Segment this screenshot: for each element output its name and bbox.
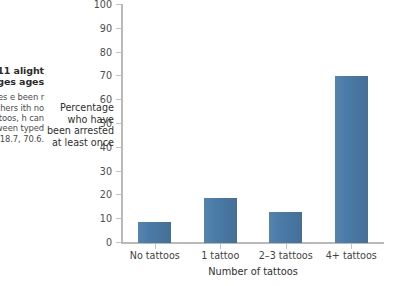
y-axis-tick [116, 218, 121, 219]
x-axis-tick [220, 244, 221, 249]
plot-area [122, 5, 384, 243]
y-axis-tick-label: 0 [106, 237, 112, 248]
bar[interactable] [335, 76, 368, 243]
x-axis-tick-label: 4+ tattoos [326, 250, 377, 261]
y-axis-tick [116, 147, 121, 148]
y-axis-tick [116, 123, 121, 124]
y-axis-title: Percentage who have been arrested at lea… [46, 102, 114, 148]
x-axis-tick [351, 244, 352, 249]
y-axis-tick [116, 4, 121, 5]
x-axis-tick-label: No tattoos [130, 250, 180, 261]
bar[interactable] [204, 198, 237, 243]
bar[interactable] [138, 222, 171, 243]
y-axis-tick-label: 10 [100, 213, 112, 224]
y-axis-tick [116, 28, 121, 29]
bar-chart: 0102030405060708090100 No tattoos1 tatto… [0, 0, 393, 286]
y-axis-tick [116, 242, 121, 243]
x-axis-tick-label: 1 tattoo [201, 250, 239, 261]
x-axis-tick [155, 244, 156, 249]
x-axis-title: Number of tattoos [208, 266, 298, 277]
y-axis-tick [116, 171, 121, 172]
y-axis-tick [116, 99, 121, 100]
y-axis-tick-label: 70 [100, 70, 112, 81]
bar[interactable] [269, 212, 302, 243]
y-axis-tick-label: 30 [100, 165, 112, 176]
y-axis-tick [116, 75, 121, 76]
y-axis-tick-label: 80 [100, 46, 112, 57]
y-axis-tick [116, 194, 121, 195]
x-axis-tick-label: 2–3 tattoos [259, 250, 313, 261]
y-axis-tick [116, 52, 121, 53]
x-axis-tick [286, 244, 287, 249]
y-axis-tick-label: 20 [100, 189, 112, 200]
y-axis-tick-label: 100 [94, 0, 112, 10]
y-axis-tick-label: 90 [100, 22, 112, 33]
